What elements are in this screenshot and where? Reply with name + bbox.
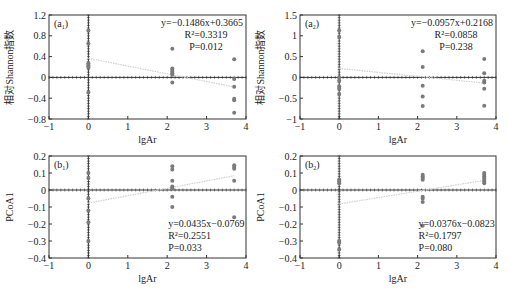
x-tick-label: 1 (125, 121, 130, 132)
plot-frame (49, 156, 246, 258)
data-point (170, 81, 174, 85)
data-point (86, 66, 90, 70)
annotation-equation: y=0.0435x−0.0769 (168, 218, 244, 229)
y-tick-label: −0.2 (28, 219, 46, 230)
regression-line (88, 176, 234, 203)
regression-line (339, 68, 484, 83)
data-point (86, 176, 90, 180)
annotation-r-squared: R²=0.3319 (185, 29, 228, 40)
annotation-p-value: P=0.238 (439, 41, 473, 52)
x-axis-label: lgAr (138, 273, 157, 284)
data-point (337, 181, 341, 185)
y-tick-label: −0.4 (28, 253, 46, 264)
x-tick-label: 1 (125, 260, 130, 271)
annotation-r-squared: R²=0.0858 (435, 29, 478, 40)
y-tick-label: 0.8 (34, 30, 47, 41)
y-tick-label: 0.1 (285, 168, 298, 179)
data-point (232, 98, 236, 102)
data-point (482, 71, 486, 75)
data-point (421, 65, 425, 69)
x-tick-label: 0 (337, 121, 342, 132)
annotation-p-value: P=0.080 (419, 242, 453, 253)
y-tick-label: 0 (292, 72, 297, 83)
chart-panel-a2: −101234−1−0.500.511.5lgAr相对Shannon指数(a2)… (254, 10, 499, 146)
panel-label: (b1) (54, 159, 69, 171)
y-tick-label: 0.1 (34, 168, 47, 179)
data-point (482, 87, 486, 91)
y-tick-label: −0.1 (28, 202, 46, 213)
data-point (232, 85, 236, 89)
y-tick-label: 1.2 (34, 10, 47, 21)
data-point (232, 57, 236, 61)
annotation-r-squared: R²=0.2551 (168, 230, 211, 241)
y-tick-label: 0.4 (34, 51, 47, 62)
annotation-r-squared: R²=0.1797 (419, 230, 462, 241)
panel-label: (a1) (54, 18, 68, 30)
x-tick-label: 4 (494, 121, 499, 132)
chart-panel-b1: −101234−0.4−0.3−0.2−0.100.10.2lgArPCoA1(… (4, 151, 249, 285)
x-tick-label: 3 (204, 121, 209, 132)
y-tick-label: −0.3 (28, 236, 46, 247)
y-tick-label: −0.3 (279, 236, 297, 247)
data-point (86, 171, 90, 175)
data-point (86, 220, 90, 224)
data-point (170, 186, 174, 190)
data-point (337, 87, 341, 91)
data-point (86, 239, 90, 243)
data-point (170, 179, 174, 183)
y-tick-label: −0.1 (279, 202, 297, 213)
x-axis-label: lgAr (389, 134, 408, 145)
x-tick-label: 0 (86, 260, 91, 271)
y-tick-label: 0.2 (285, 151, 298, 162)
annotation-p-value: P=0.033 (168, 242, 202, 253)
y-axis-label: PCoA1 (255, 192, 266, 221)
data-point (482, 80, 486, 84)
data-point (232, 167, 236, 171)
data-point (337, 35, 341, 39)
data-point (86, 42, 90, 46)
data-point (421, 49, 425, 53)
data-point (232, 179, 236, 183)
y-tick-label: −1 (286, 114, 297, 125)
data-point (337, 79, 341, 83)
x-axis-label: lgAr (389, 273, 408, 284)
panel-label: (b2) (305, 159, 320, 171)
data-point (337, 92, 341, 96)
data-point (86, 29, 90, 33)
data-point (170, 195, 174, 199)
x-tick-label: 2 (415, 121, 420, 132)
data-point (337, 28, 341, 32)
y-tick-label: −0.2 (279, 219, 297, 230)
panel-label: (a2) (305, 18, 319, 30)
x-tick-label: 4 (244, 121, 249, 132)
data-point (337, 248, 341, 252)
x-axis-label: lgAr (138, 134, 157, 145)
y-tick-label: −0.5 (279, 93, 297, 104)
data-point (421, 178, 425, 182)
data-point (232, 77, 236, 81)
annotation-p-value: P=0.012 (189, 41, 223, 52)
data-point (86, 90, 90, 94)
figure: −101234−0.8−0.400.40.81.2lgAr相对Shannon指数… (0, 0, 508, 291)
chart-panel-b2: −101234−0.4−0.3−0.2−0.100.10.2lgArPCoA1(… (255, 151, 499, 285)
y-tick-label: 0 (41, 185, 46, 196)
plot-frame (300, 156, 496, 258)
x-tick-label: 1 (376, 121, 381, 132)
y-axis-label: 相对Shannon指数 (3, 30, 15, 105)
data-point (482, 57, 486, 61)
data-point (421, 200, 425, 204)
y-tick-label: 1.5 (285, 10, 298, 21)
y-tick-label: 1 (292, 30, 297, 41)
data-point (170, 164, 174, 168)
regression-line (88, 58, 234, 87)
x-tick-label: 3 (204, 260, 209, 271)
regression-line (339, 180, 484, 204)
data-point (482, 104, 486, 108)
x-tick-label: 0 (86, 121, 91, 132)
x-tick-label: 2 (165, 121, 170, 132)
y-tick-label: 0 (41, 72, 46, 83)
data-point (86, 197, 90, 201)
data-point (482, 181, 486, 185)
data-point (170, 205, 174, 209)
y-axis-label: 相对Shannon指数 (254, 30, 266, 105)
